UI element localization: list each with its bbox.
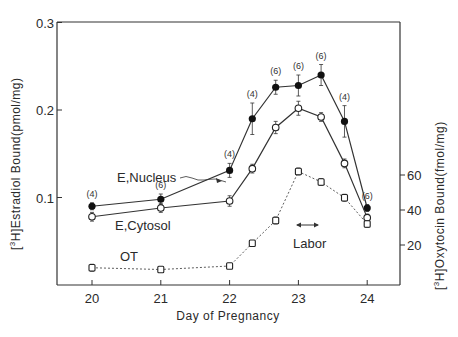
labor-annotation: Labor: [293, 223, 327, 252]
sample-size-label: (6): [316, 51, 327, 61]
sample-size-label: (6): [270, 66, 281, 76]
data-point: [272, 84, 279, 91]
data-point: [226, 167, 233, 174]
cytosol-series-label: E,Cytosol: [115, 218, 171, 233]
chart-figure: 2021222324 0.10.20.3 204060 (4)(6)(4)(4)…: [0, 0, 458, 337]
data-point: [272, 124, 279, 131]
data-point: [249, 240, 255, 247]
data-point: [364, 214, 371, 221]
y-axis-right-label: [3H]Oxytocin Bound(fmol/mg): [432, 121, 447, 290]
y-left-tick-label: 0.3: [36, 16, 54, 31]
data-point: [226, 198, 233, 205]
arrow-right-icon: [314, 223, 319, 228]
svg-text:[3H]Estradiol Bound(pmol/mg): [3H]Estradiol Bound(pmol/mg): [8, 77, 23, 250]
series-e-cytosol: [89, 101, 371, 221]
svg-text:[3H]Oxytocin Bound(fmol/mg): [3H]Oxytocin Bound(fmol/mg): [432, 121, 447, 290]
sample-size-label: (6): [293, 61, 304, 71]
data-point: [249, 115, 256, 122]
y-axis-left-ticks: 0.10.20.3: [36, 16, 62, 206]
data-point: [89, 213, 96, 220]
data-point: [341, 194, 347, 201]
data-point: [318, 179, 324, 186]
x-tick-label: 23: [291, 291, 305, 306]
arrow-left-icon: [296, 223, 301, 228]
x-axis-ticks: 2021222324: [85, 280, 375, 306]
sample-size-label: (6): [362, 191, 373, 201]
data-point: [295, 82, 302, 89]
data-point: [227, 263, 233, 270]
y-left-tick-label: 0.1: [36, 191, 54, 206]
data-point: [89, 264, 95, 271]
series-e-nucleus: (4)(6)(4)(4)(6)(6)(6)(4)(6): [87, 51, 373, 212]
sample-size-label: (4): [87, 189, 98, 199]
x-tick-label: 24: [360, 291, 374, 306]
y-right-tick-label: 20: [407, 238, 421, 253]
data-series: (4)(6)(4)(4)(6)(6)(6)(4)(6): [87, 51, 373, 273]
data-point: [273, 217, 279, 224]
y-right-tick-label: 60: [407, 168, 421, 183]
data-point: [341, 118, 348, 125]
y-axis-right-ticks: 204060: [400, 168, 421, 253]
data-point: [341, 160, 348, 167]
nucleus-series-label: E,Nucleus: [117, 170, 177, 185]
sample-size-label: (4): [247, 89, 258, 99]
x-tick-label: 22: [222, 291, 236, 306]
data-point: [158, 205, 165, 212]
labor-label: Labor: [293, 236, 327, 251]
sample-size-label: (4): [224, 149, 235, 159]
y-right-tick-label: 40: [407, 203, 421, 218]
data-point: [318, 114, 325, 121]
data-point: [318, 71, 325, 78]
data-point: [295, 168, 301, 175]
data-point: [158, 266, 164, 273]
data-point: [249, 165, 256, 172]
ot-series-label: OT: [120, 249, 138, 264]
sample-size-label: (4): [339, 92, 350, 102]
data-point: [88, 203, 95, 210]
y-axis-left-label: [3H]Estradiol Bound(pmol/mg): [8, 77, 23, 250]
y-left-tick-label: 0.2: [36, 103, 54, 118]
x-axis-label: Day of Pregnancy: [176, 309, 279, 323]
data-point: [295, 105, 302, 112]
x-tick-label: 21: [154, 291, 168, 306]
data-point: [364, 221, 370, 228]
x-tick-label: 20: [85, 291, 99, 306]
data-point: [157, 196, 164, 203]
